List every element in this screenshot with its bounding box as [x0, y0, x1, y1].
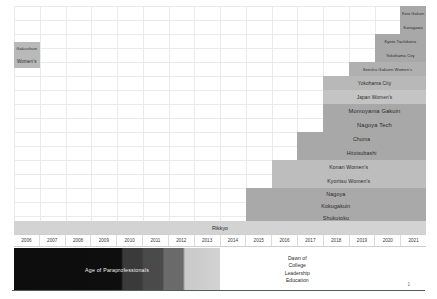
axis-year-2009[interactable]: 2009 [91, 235, 117, 246]
axis-year-2016[interactable]: 2016 [272, 235, 298, 246]
chart-plot-area: Gakushuin Women's Keio Gakuin Kanagawa K… [14, 6, 426, 234]
baseline-bar-rikkyo[interactable]: Rikkyo [14, 221, 426, 234]
label-nagoya: Nagoya [246, 188, 426, 200]
axis-year-2012[interactable]: 2012 [169, 235, 195, 246]
label-japan-womens: Japan Women's [323, 90, 426, 104]
axis-year-2017[interactable]: 2017 [298, 235, 324, 246]
label-kyoto-tachibana: Kyoto Tachibana [375, 34, 427, 48]
axis-year-2011[interactable]: 2011 [143, 235, 169, 246]
label-kanagawa: Kanagawa [400, 20, 426, 34]
label-kyoritsu-womens: Kyoritsu Women's [272, 174, 427, 188]
label-kokugakuin: Kokugakuin [246, 200, 426, 212]
axis-year-2015[interactable]: 2015 [246, 235, 272, 246]
axis-year-2007[interactable]: 2007 [40, 235, 66, 246]
gridline-vertical [194, 6, 195, 234]
label-nagoya-tech: Nagoya Tech [323, 118, 426, 132]
axis-year-2013[interactable]: 2013 [195, 235, 221, 246]
label-chuma: Chuma [297, 132, 426, 146]
label-konan-womens: Konan Women's [272, 160, 427, 174]
gridline-horizontal [14, 34, 426, 35]
era-band-row: Age of Paraprofessionals Dawn of College… [14, 248, 426, 291]
slide-canvas: Gakushuin Women's Keio Gakuin Kanagawa K… [0, 0, 437, 299]
era-dawn-line-4: Education [286, 278, 309, 283]
axis-year-2010[interactable]: 2010 [117, 235, 143, 246]
era-paraprofessionals-label: Age of Paraprofessionals [85, 267, 149, 273]
axis-year-2019[interactable]: 2019 [350, 235, 376, 246]
label-keio-gakuin: Keio Gakuin [400, 6, 426, 20]
label-yokohama-city-top: Yokohama City [375, 48, 427, 62]
gridline-vertical [91, 6, 92, 234]
era-dawn-line-1: Dawn of [288, 256, 307, 261]
era-dawn-line-3: Leadership [285, 271, 310, 276]
year-axis: 2006 2007 2008 2009 2010 2011 2012 2013 … [14, 234, 426, 247]
gridline-horizontal [14, 6, 426, 7]
label-momoyama-gakuin: Momoyama Gakuin [323, 104, 426, 118]
axis-year-2008[interactable]: 2008 [66, 235, 92, 246]
label-gakushuin-womens: Women's [14, 55, 40, 68]
gridline-vertical [40, 6, 41, 234]
axis-year-2018[interactable]: 2018 [324, 235, 350, 246]
gridline-vertical [169, 6, 170, 234]
era-dawn-line-2: College [289, 263, 306, 268]
gridline-vertical [143, 6, 144, 234]
label-senshu-gakuen-womens: Senshu Gakuen Women's [349, 62, 426, 76]
era-dawn-of-college-leadership-education[interactable]: Dawn of College Leadership Education [272, 248, 324, 291]
axis-year-2020[interactable]: 2020 [375, 235, 401, 246]
gridline-horizontal [14, 48, 426, 49]
page-number: 1 [407, 282, 410, 287]
gridline-vertical [14, 6, 15, 234]
label-rikkyo: Rikkyo [212, 225, 228, 231]
gridline-vertical [66, 6, 67, 234]
label-yokohama-city: Yokohama City [323, 76, 426, 90]
footer-divider [12, 290, 425, 291]
axis-year-2006[interactable]: 2006 [14, 235, 40, 246]
label-hitotsubashi: Hitotsubashi [297, 146, 426, 160]
axis-year-2021[interactable]: 2021 [401, 235, 426, 246]
gridline-vertical [117, 6, 118, 234]
axis-year-2014[interactable]: 2014 [221, 235, 247, 246]
label-gakushuin: Gakushuin [14, 42, 40, 55]
gridline-horizontal [14, 20, 426, 21]
gridline-vertical [220, 6, 221, 234]
era-paraprofessionals[interactable]: Age of Paraprofessionals [14, 248, 220, 291]
